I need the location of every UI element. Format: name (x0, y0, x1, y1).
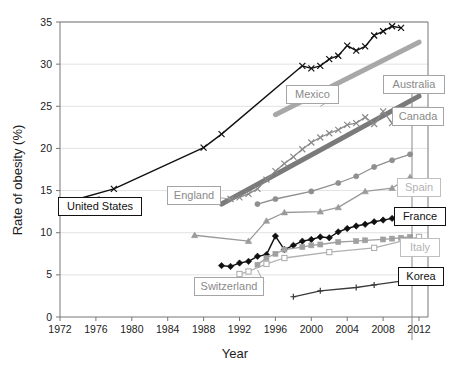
data-point-marker (326, 56, 332, 62)
data-point-marker (245, 258, 251, 264)
gridlines (60, 22, 428, 275)
x-tick-label: 1976 (84, 323, 108, 335)
x-tick-label: 1996 (264, 323, 288, 335)
data-point-marker (264, 261, 269, 266)
series-line (69, 26, 401, 201)
callout-label-france: France (394, 207, 446, 226)
data-point-marker (290, 294, 296, 300)
series-line (293, 280, 410, 297)
data-point-marker (255, 201, 260, 206)
data-point-marker (389, 185, 395, 191)
series-line (257, 237, 410, 265)
data-point-marker (344, 43, 350, 49)
data-point-marker (317, 134, 323, 140)
data-point-marker (299, 146, 305, 152)
callout-label-canada: Canada (392, 107, 444, 126)
data-point-marker (353, 285, 359, 291)
data-point-marker (326, 130, 332, 136)
y-tick-label: 0 (46, 311, 52, 323)
callout-label-england: England (167, 186, 221, 205)
x-axis-title: Year (222, 346, 249, 361)
data-point-marker (380, 217, 386, 223)
y-tick-label: 10 (40, 226, 52, 238)
data-point-marker (335, 204, 341, 210)
y-tick-label: 20 (40, 142, 52, 154)
series-italy (255, 234, 413, 267)
y-axis-title: Rate of obesity (%) (10, 125, 25, 236)
callout-label-australia: Australia (383, 75, 445, 94)
callout-label-united-states: United States (58, 197, 142, 216)
data-series-group (66, 23, 422, 300)
y-tick-label: 15 (40, 184, 52, 196)
data-point-marker (281, 161, 287, 167)
data-point-marker (246, 269, 251, 274)
data-point-marker (336, 180, 341, 185)
y-tick-label: 25 (40, 100, 52, 112)
data-point-marker (273, 196, 278, 201)
callout-label-italy: Italy (400, 238, 440, 257)
x-tick-label: 2008 (371, 323, 395, 335)
x-tick-label: 1988 (192, 323, 216, 335)
callout-label-korea: Korea (398, 267, 444, 286)
data-point-marker (381, 237, 386, 242)
x-tick-label: 2012 (407, 323, 431, 335)
data-point-marker (227, 263, 233, 269)
obesity-rate-chart: 0510152025303519721976198019841988199219… (0, 0, 455, 370)
y-tick-label: 30 (40, 58, 52, 70)
data-point-marker (363, 238, 368, 243)
data-point-marker (335, 127, 341, 133)
data-point-marker (219, 131, 225, 137)
series-canada (255, 152, 413, 207)
data-point-marker (273, 251, 278, 256)
data-point-marker (362, 43, 368, 49)
data-point-marker (236, 260, 242, 266)
callout-label-switzerland: Switzerland (194, 277, 264, 296)
data-point-marker (353, 223, 359, 229)
x-tick-label: 2000 (300, 323, 324, 335)
callout-label-mexico: Mexico (286, 85, 339, 104)
y-tick-label: 5 (46, 268, 52, 280)
data-point-marker (300, 245, 305, 250)
data-point-marker (317, 234, 323, 240)
series-line (257, 154, 410, 204)
data-point-marker (299, 238, 305, 244)
data-point-marker (290, 154, 296, 160)
chart-canvas: 0510152025303519721976198019841988199219… (0, 0, 455, 370)
data-point-marker (371, 219, 377, 225)
data-point-marker (371, 282, 377, 288)
data-point-marker (372, 245, 377, 250)
series-korea (290, 277, 413, 300)
x-tick-label: 1980 (120, 323, 144, 335)
data-point-marker (254, 253, 260, 259)
data-point-marker (308, 140, 314, 146)
data-point-marker (327, 250, 332, 255)
y-tick-label: 35 (40, 16, 52, 28)
data-point-marker (335, 53, 341, 59)
data-point-marker (309, 189, 314, 194)
data-point-marker (362, 114, 368, 120)
series-line (195, 177, 410, 241)
data-point-marker (309, 243, 314, 248)
data-point-marker (237, 271, 242, 276)
data-point-marker (318, 242, 323, 247)
data-point-marker (218, 262, 224, 268)
data-point-marker (201, 145, 207, 151)
data-point-marker (362, 221, 368, 227)
data-point-marker (354, 239, 359, 244)
data-point-marker (354, 174, 359, 179)
data-point-marker (282, 247, 287, 252)
x-tick-label: 1972 (48, 323, 72, 335)
data-point-marker (317, 288, 323, 294)
x-tick-label: 1992 (228, 323, 252, 335)
data-point-marker (389, 158, 394, 163)
data-point-marker (336, 239, 341, 244)
x-tick-label: 2004 (336, 323, 360, 335)
data-point-marker (380, 28, 386, 34)
data-point-marker (371, 32, 377, 38)
data-point-marker (390, 236, 395, 241)
data-point-marker (264, 256, 269, 261)
data-point-marker (353, 48, 359, 54)
callout-label-spain: Spain (397, 178, 441, 197)
data-point-marker (344, 225, 350, 231)
data-point-marker (308, 236, 314, 242)
